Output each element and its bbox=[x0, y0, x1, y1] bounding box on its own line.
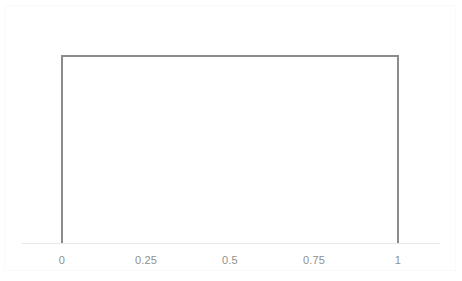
chart-screenshot: 0 0.25 0.5 0.75 1 bbox=[0, 0, 462, 281]
x-tick-label-0-25: 0.25 bbox=[135, 254, 157, 267]
x-tick-label-0-75: 0.75 bbox=[303, 254, 325, 267]
x-tick-label-0-5: 0.5 bbox=[222, 254, 238, 267]
x-tick-label-0: 0 bbox=[59, 254, 65, 267]
uniform-pdf-curve bbox=[62, 56, 398, 243]
plot-canvas bbox=[0, 0, 462, 281]
x-tick-label-1: 1 bbox=[395, 254, 401, 267]
plot-area bbox=[0, 0, 462, 281]
